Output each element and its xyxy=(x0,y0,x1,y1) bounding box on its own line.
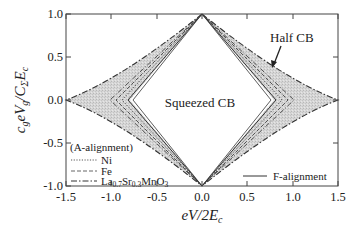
y-tick-label: 0.0 xyxy=(47,93,63,107)
x-tick-labels: -1.5 -1.0 -0.5 0.0 0.5 1.0 1.5 xyxy=(56,190,346,204)
y-tick-label: -0.5 xyxy=(43,136,63,150)
half-cb-label: Half CB xyxy=(270,30,314,45)
x-tick-label: -0.5 xyxy=(147,190,167,204)
x-tick-label: -1.0 xyxy=(101,190,121,204)
legend-header: (A-alignment) xyxy=(70,141,133,154)
legend-label-f-alignment: F-alignment xyxy=(273,170,327,182)
legend-f-alignment: F-alignment xyxy=(243,170,327,182)
x-tick-label: 1.0 xyxy=(285,190,301,204)
y-tick-labels: 1.0 0.5 0.0 -0.5 -1.0 xyxy=(43,7,63,193)
y-tick-label: -1.0 xyxy=(43,179,63,193)
x-tick-label: 0.5 xyxy=(239,190,255,204)
squeezed-cb-label: Squeezed CB xyxy=(165,95,236,110)
x-tick-label: 0.0 xyxy=(194,190,210,204)
y-tick-label: 1.0 xyxy=(47,7,63,21)
chart-svg: -1.5 -1.0 -0.5 0.0 0.5 1.0 1.5 1.0 0.5 0… xyxy=(0,0,355,231)
y-tick-label: 0.5 xyxy=(47,50,63,64)
y-axis-label: cgeVg/CΣEc xyxy=(12,66,30,133)
x-axis-label: eV/2Ec xyxy=(181,207,223,225)
x-tick-label: 1.5 xyxy=(330,190,346,204)
half-cb-arrow-icon xyxy=(271,46,281,68)
legend-label-lsmo: La0.7Sr0.3MnO3 xyxy=(101,175,168,189)
